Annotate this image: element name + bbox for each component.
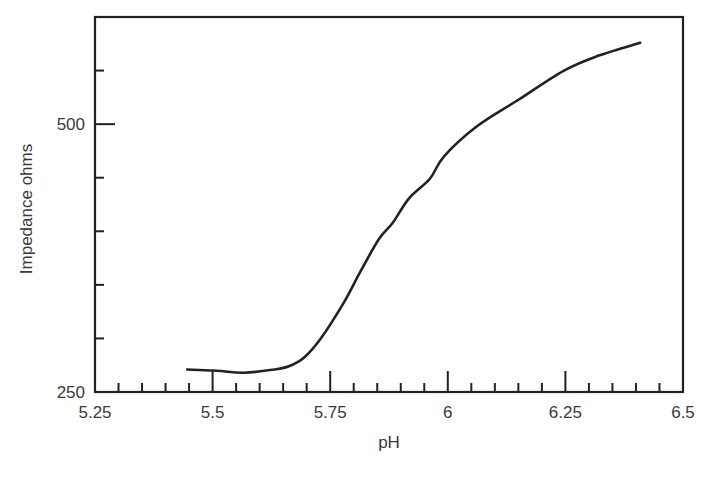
y-axis-ticks <box>95 71 115 339</box>
y-axis-tick-labels: 250500 <box>57 115 85 402</box>
x-axis-ticks <box>119 371 660 392</box>
y-tick-label: 250 <box>57 383 85 402</box>
x-tick-label: 5.5 <box>201 403 225 422</box>
x-tick-label: 6.5 <box>671 403 695 422</box>
x-tick-label: 6 <box>443 403 452 422</box>
y-tick-label: 500 <box>57 115 85 134</box>
x-tick-label: 5.25 <box>78 403 111 422</box>
y-axis-title: Impedance ohms <box>17 144 36 274</box>
figure-caption-fragment <box>130 471 690 477</box>
impedance-vs-ph-chart: Impedance ohms pH 5.255.55.7566.256.5 25… <box>0 0 715 477</box>
plot-frame <box>95 17 683 392</box>
x-tick-label: 6.25 <box>549 403 582 422</box>
x-axis-tick-labels: 5.255.55.7566.256.5 <box>78 403 694 422</box>
y-axis-label: Impedance ohms <box>17 144 36 274</box>
plot-area: 5.255.55.7566.256.5 250500 <box>57 17 695 422</box>
x-tick-label: 5.75 <box>314 403 347 422</box>
x-axis-label: pH <box>378 433 400 452</box>
impedance-curve <box>187 43 640 373</box>
